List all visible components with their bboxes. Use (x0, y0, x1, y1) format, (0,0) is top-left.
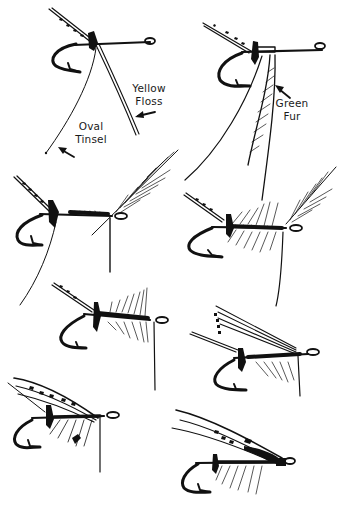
arrow-yellow-floss (135, 111, 155, 118)
label-oval-tinsel: Oval Tinsel (70, 120, 112, 146)
step-3-fly (14, 150, 178, 305)
label-yellow-floss: Yellow Floss (127, 82, 171, 108)
label-yellow-floss-line-2: Floss (127, 95, 171, 108)
label-green-fur: Green Fur (270, 97, 314, 123)
label-oval-tinsel-line-2: Tinsel (70, 133, 112, 146)
step-7-fly (8, 378, 119, 472)
label-green-fur-line-2: Fur (270, 110, 314, 123)
label-oval-tinsel-line-1: Oval (70, 120, 112, 133)
step-5-fly (52, 283, 168, 390)
fly-tying-illustration (0, 0, 351, 513)
step-4-fly (184, 167, 336, 306)
step-6-fly (190, 306, 319, 396)
label-yellow-floss-line-1: Yellow (127, 82, 171, 95)
label-green-fur-line-1: Green (270, 97, 314, 110)
arrow-oval-tinsel (58, 147, 74, 157)
step-8-fly (172, 410, 295, 494)
